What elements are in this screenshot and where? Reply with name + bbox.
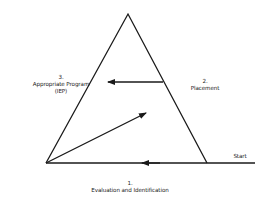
node-1-label: 1. Evaluation and Identification [91, 180, 168, 194]
node-3-label: 3. Appropriate Program (IEP) [33, 74, 89, 95]
start-label: Start [233, 153, 246, 160]
evaluation-to-placement-arrow [46, 113, 146, 163]
node-2-label: 2. Placement [191, 78, 220, 92]
triangle-diagram [0, 0, 269, 205]
node-1-number: 1. [91, 180, 168, 187]
node-3-subtitle: (IEP) [33, 88, 89, 95]
node-1-title: Evaluation and Identification [91, 187, 168, 194]
node-3-number: 3. [33, 74, 89, 81]
node-3-title: Appropriate Program [33, 81, 89, 88]
node-2-title: Placement [191, 85, 220, 92]
node-2-number: 2. [191, 78, 220, 85]
